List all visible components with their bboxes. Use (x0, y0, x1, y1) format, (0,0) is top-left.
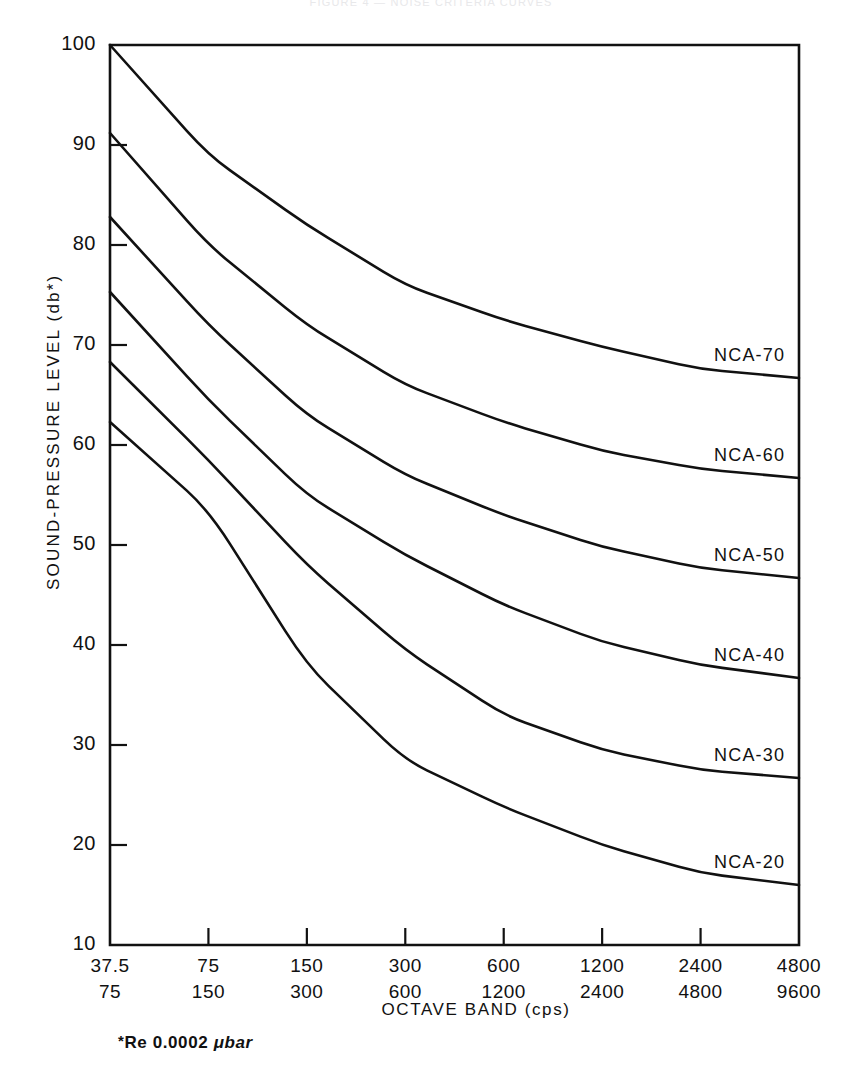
x-tick-label-lower: 75 (163, 955, 253, 977)
curve-nca-30 (110, 362, 799, 778)
x-tick-label-lower: 150 (262, 955, 352, 977)
y-tick-label: 10 (36, 932, 96, 955)
curve-nca-40 (110, 292, 799, 678)
y-tick-label: 40 (36, 632, 96, 655)
y-tick-label: 80 (36, 232, 96, 255)
nca-curves (110, 45, 799, 885)
curve-label-nca-50: NCA-50 (714, 545, 785, 566)
plot-canvas (0, 0, 862, 1067)
y-tick-label: 90 (36, 132, 96, 155)
y-tick-label: 100 (36, 32, 96, 55)
curve-label-nca-60: NCA-60 (714, 445, 785, 466)
curve-label-nca-70: NCA-70 (714, 345, 785, 366)
curve-nca-60 (110, 133, 799, 478)
curve-label-nca-30: NCA-30 (714, 745, 785, 766)
chart-figure: FIGURE 4 — NOISE CRITERIA CURVES 1009080… (0, 0, 862, 1067)
x-tick-label-lower: 2400 (656, 955, 746, 977)
y-tick-label: 20 (36, 832, 96, 855)
y-tick-label: 30 (36, 732, 96, 755)
footnote-text: Re 0.0002 (124, 1033, 213, 1052)
x-tick-label-lower: 300 (360, 955, 450, 977)
curve-nca-50 (110, 217, 799, 578)
x-tick-label-lower: 600 (459, 955, 549, 977)
x-tick-label-lower: 1200 (557, 955, 647, 977)
x-tick-label-lower: 37.5 (65, 955, 155, 977)
axis-ticks (110, 145, 701, 945)
curve-label-nca-40: NCA-40 (714, 645, 785, 666)
footnote: *Re 0.0002 μbar (118, 1032, 253, 1053)
footnote-unit: μbar (214, 1033, 253, 1052)
curve-label-nca-20: NCA-20 (714, 852, 785, 873)
x-axis-title: OCTAVE BAND (cps) (0, 1000, 862, 1020)
x-tick-label-lower: 4800 (754, 955, 844, 977)
y-axis-title: SOUND-PRESSURE LEVEL (db*) (44, 290, 64, 590)
curve-nca-20 (110, 422, 799, 885)
